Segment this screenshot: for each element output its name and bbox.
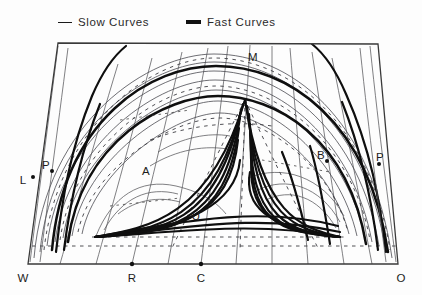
- slow-curve-family-radial: [60, 45, 372, 264]
- label-B: B: [317, 149, 325, 161]
- point-dot-P-left: [50, 169, 54, 173]
- label-L: L: [20, 174, 27, 186]
- point-dot-B: [325, 159, 329, 163]
- label-P-left: P: [42, 159, 50, 171]
- dashed-contour-family: [32, 58, 396, 250]
- label-M: M: [248, 51, 258, 63]
- label-P-right: P: [376, 151, 384, 163]
- diagram-interior: [30, 44, 396, 264]
- label-A: A: [142, 165, 150, 177]
- point-dot-L: [31, 175, 35, 179]
- diagram-svg: [0, 0, 422, 295]
- label-C: C: [197, 272, 206, 284]
- point-dot-R: [130, 262, 134, 266]
- point-dot-C: [199, 262, 203, 266]
- figure-canvas: Slow Curves Fast Curves: [0, 0, 422, 295]
- label-W: W: [17, 272, 28, 284]
- slow-curve-inner-cells: [96, 135, 344, 236]
- label-U: U: [192, 210, 201, 222]
- label-O: O: [396, 272, 405, 284]
- label-R: R: [128, 272, 137, 284]
- axis-point-dots: [31, 159, 381, 266]
